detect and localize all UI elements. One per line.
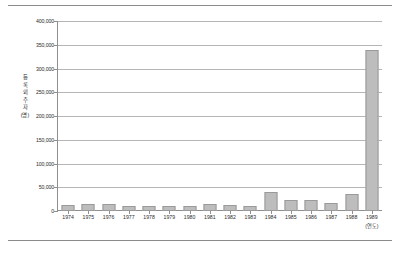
bottom-divider-rule (8, 240, 392, 241)
x-axis-tick-label: 1988 (346, 214, 358, 220)
x-axis-tick-label: 1979 (164, 214, 176, 220)
y-axis-tick-label: 350,000 (36, 42, 54, 48)
bar (264, 192, 277, 211)
bar-slot (139, 21, 159, 211)
bar-slot (99, 21, 119, 211)
x-axis-tick-label: 1977 (123, 214, 135, 220)
x-axis-tick-label: 1976 (103, 214, 115, 220)
y-axis-tick-label: 300,000 (36, 66, 54, 72)
bar-slot (321, 21, 341, 211)
bar-series (58, 21, 382, 211)
x-axis-tick-label: 1978 (143, 214, 155, 220)
bar-slot (342, 21, 362, 211)
bar-slot (301, 21, 321, 211)
y-axis-labels: 050,000100,000150,000200,000250,000300,0… (0, 21, 54, 211)
x-axis-tick-label: 1975 (83, 214, 95, 220)
x-axis-tick-label: 1984 (265, 214, 277, 220)
x-axis-labels: 1974197519761977197819791980198119821983… (58, 214, 382, 228)
bar (305, 200, 318, 211)
y-axis-tick-label: 200,000 (36, 113, 54, 119)
bar-slot (200, 21, 220, 211)
bar (203, 204, 216, 211)
bar (325, 203, 338, 211)
bar (345, 194, 358, 211)
x-axis-tick-label: 1987 (326, 214, 338, 220)
bar-slot (362, 21, 382, 211)
bar-slot (119, 21, 139, 211)
bar (82, 204, 95, 211)
bar-slot (78, 21, 98, 211)
top-divider-rule (8, 5, 392, 6)
bar-slot (180, 21, 200, 211)
x-axis-tick-label: 1985 (285, 214, 297, 220)
chart-figure: 등 록 외 주 자 (명) 050,000100,000150,000200,0… (0, 0, 400, 253)
bar (102, 204, 115, 211)
bar-slot (281, 21, 301, 211)
x-axis-tick-label: 1989 (366, 214, 378, 220)
bar-slot (261, 21, 281, 211)
x-axis-tick-label: 1986 (305, 214, 317, 220)
x-axis-tick-label: 1982 (224, 214, 236, 220)
x-axis-tick-label: 1974 (62, 214, 74, 220)
bar-slot (159, 21, 179, 211)
bar (365, 50, 378, 212)
bar-slot (220, 21, 240, 211)
bar-slot (240, 21, 260, 211)
y-axis-tick-label: 150,000 (36, 137, 54, 143)
y-axis-tick (54, 211, 58, 212)
x-axis-tick-label: 1983 (245, 214, 257, 220)
y-axis-tick-label: 250,000 (36, 89, 54, 95)
y-axis-tick-label: 100,000 (36, 161, 54, 167)
y-axis-tick-label: 400,000 (36, 18, 54, 24)
x-axis-tick-label: 1981 (204, 214, 216, 220)
y-axis-tick-label: 50,000 (39, 184, 54, 190)
x-axis-tick-label: 1980 (184, 214, 196, 220)
bar (284, 200, 297, 211)
x-axis-unit-label: (연도) (365, 222, 378, 229)
bar-slot (58, 21, 78, 211)
